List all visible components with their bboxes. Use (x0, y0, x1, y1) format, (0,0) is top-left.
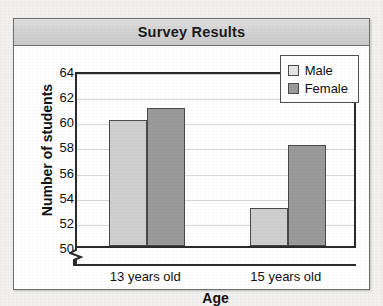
y-tick-label: 52 (60, 215, 74, 230)
y-tick-label: 64 (60, 65, 74, 80)
x-tick-label: 15 years old (250, 269, 321, 284)
y-axis-tick-labels: 5052545658606264 (46, 72, 74, 248)
legend-label: Female (305, 81, 348, 96)
legend-item-male: Male (288, 61, 348, 79)
chart-body: Number of students 5052545658606264 Male… (14, 46, 369, 289)
legend-label: Male (305, 63, 333, 78)
y-tick-label: 58 (60, 140, 74, 155)
bar-female-1 (288, 145, 326, 246)
y-tick-label: 56 (60, 165, 74, 180)
x-axis-title: Age (75, 290, 356, 306)
bar-male-1 (250, 208, 288, 246)
x-axis-tick-labels: 13 years old15 years old (75, 269, 356, 289)
y-tick-label: 54 (60, 190, 74, 205)
bar-female-0 (147, 108, 185, 246)
page-background: Survey Results Number of students 505254… (0, 0, 383, 306)
x-tick-label: 13 years old (110, 269, 181, 284)
chart-title-bar: Survey Results (14, 19, 369, 46)
y-tick-label: 62 (60, 90, 74, 105)
x-axis-line (75, 264, 356, 266)
legend-item-female: Female (288, 79, 348, 97)
female-swatch-icon (288, 83, 299, 94)
legend: MaleFemale (280, 55, 359, 103)
y-tick-label: 60 (60, 115, 74, 130)
male-swatch-icon (288, 65, 299, 76)
chart-title: Survey Results (138, 24, 246, 40)
bar-male-0 (109, 120, 147, 246)
chart-card: Survey Results Number of students 505254… (13, 18, 370, 290)
